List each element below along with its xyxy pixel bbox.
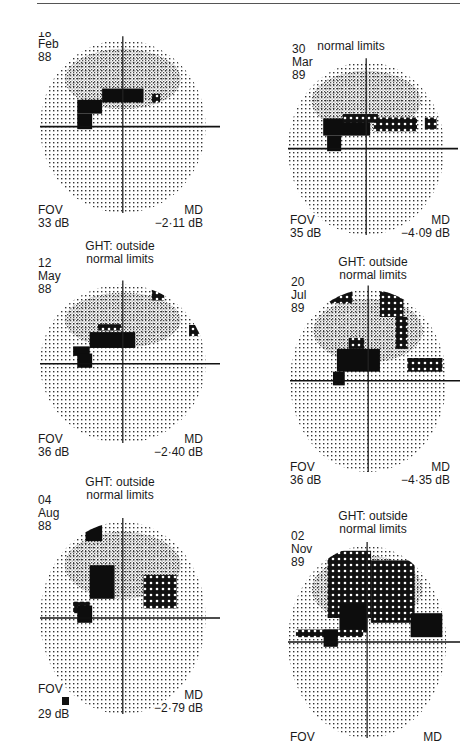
fov-value: 29 dB: [38, 708, 69, 721]
ght-line-2: normal limits: [308, 269, 438, 282]
mean-deviation: MD −2·79 dB: [154, 689, 203, 715]
greyscale-field-plot: [40, 278, 220, 443]
fovea-threshold: FOV 29 dB: [38, 683, 69, 721]
md-value: −2·79 dB: [154, 702, 203, 715]
md-label: MD: [423, 731, 442, 741]
fov-value: 33 dB: [38, 217, 69, 230]
fovea-threshold: FOV 33 dB: [38, 204, 69, 230]
visual-field-panel-1: 18 Feb 88 FOV 33 dB MD −2·11 dB: [0, 0, 220, 230]
fov-label: FOV: [290, 731, 315, 741]
fovea-threshold: FOV 35 dB: [290, 214, 321, 240]
mean-deviation: MD −4·09 dB: [401, 214, 450, 240]
greyscale-field-plot: [288, 55, 458, 235]
ght-result: GHT: outside normal limits: [308, 256, 438, 282]
fovea-defect-marker: [62, 697, 69, 705]
ght-line-2: normal limits: [55, 489, 185, 502]
fovea-threshold: FOV: [290, 731, 315, 741]
md-value: −2·40 dB: [154, 446, 203, 459]
md-value: −4·09 dB: [401, 227, 450, 240]
ght-result: GHT: outside normal limits: [308, 510, 438, 536]
fov-value: 36 dB: [290, 474, 321, 487]
visual-field-panel-2: normal limits 30 Mar 89 FOV 35 dB MD −4·…: [230, 0, 450, 240]
mean-deviation: MD −4·35 dB: [401, 461, 450, 487]
visual-field-panel-5: GHT: outside normal limits 04 Aug 88 FOV…: [0, 476, 220, 741]
fov-label: FOV: [38, 683, 69, 696]
visual-field-panel-4: GHT: outside normal limits 20 Jul 89 FOV…: [230, 256, 450, 486]
md-value: −4·35 dB: [401, 474, 450, 487]
ght-result: GHT: outside normal limits: [55, 476, 185, 502]
mean-deviation: MD −2·11 dB: [155, 204, 203, 230]
visual-field-panel-6: GHT: outside normal limits 02 Nov 89 FOV…: [230, 510, 450, 741]
visual-field-panel-3: GHT: outside normal limits 12 May 88 FOV…: [0, 240, 220, 460]
greyscale-field-plot: [40, 33, 220, 213]
greyscale-field-plot: [290, 282, 460, 472]
fov-value: 35 dB: [290, 227, 321, 240]
fov-value: 36 dB: [38, 446, 69, 459]
greyscale-field-plot: [288, 538, 460, 738]
ght-line-2: normal limits: [55, 253, 185, 266]
ght-line-2: normal limits: [308, 523, 438, 536]
fovea-threshold: FOV 36 dB: [38, 433, 69, 459]
mean-deviation: MD −2·40 dB: [154, 433, 203, 459]
mean-deviation: MD: [423, 731, 442, 741]
ght-result: GHT: outside normal limits: [55, 240, 185, 266]
fovea-threshold: FOV 36 dB: [290, 461, 321, 487]
md-value: −2·11 dB: [155, 217, 203, 230]
